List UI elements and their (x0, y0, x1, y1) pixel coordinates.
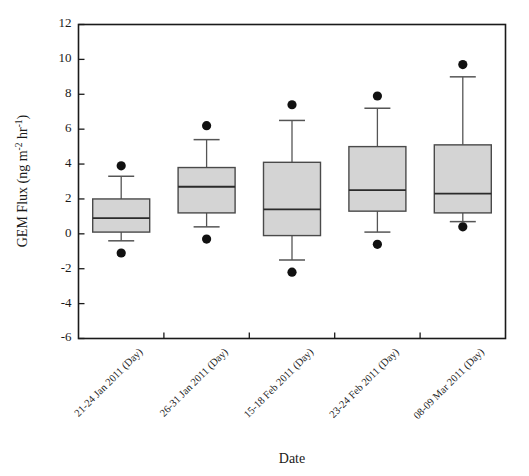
box-iqr (434, 145, 491, 213)
outlier-point (117, 161, 126, 170)
y-axis-title-suffix: ) (15, 114, 31, 119)
y-tick-label: -2 (61, 260, 72, 275)
y-axis-title: GEM Flux (ng m-2 hr-1) (14, 114, 31, 247)
chart-canvas: 121086420-2-4-6 21-24 Jan 2011 (Day)26-3… (0, 0, 529, 476)
outlier-point (458, 60, 467, 69)
y-tick-label: -4 (61, 295, 72, 310)
y-tick-label: 12 (59, 15, 72, 30)
y-tick-label: 8 (65, 85, 72, 100)
y-tick-label: 0 (65, 225, 72, 240)
y-tick-label: 4 (65, 155, 72, 170)
y-tick-label: -6 (61, 329, 72, 344)
outlier-point (117, 248, 126, 257)
boxplot-figure: 121086420-2-4-6 21-24 Jan 2011 (Day)26-3… (0, 0, 529, 476)
outlier-point (458, 222, 467, 231)
box-iqr (93, 199, 150, 232)
x-axis-title: Date (279, 451, 305, 466)
box-iqr (178, 168, 235, 213)
outlier-point (202, 121, 211, 130)
y-axis-title-prefix: GEM Flux (ng m (15, 150, 31, 247)
outlier-point (373, 240, 382, 249)
outlier-point (287, 268, 296, 277)
y-axis-title-mid: hr (15, 127, 30, 143)
y-tick-label: 2 (65, 190, 72, 205)
outlier-point (287, 100, 296, 109)
y-tick-label: 10 (59, 50, 72, 65)
box-iqr (264, 162, 321, 235)
svg-text:GEM Flux (ng m-2 hr-1): GEM Flux (ng m-2 hr-1) (14, 114, 31, 247)
outlier-point (202, 234, 211, 243)
outlier-point (373, 91, 382, 100)
box-iqr (349, 147, 406, 212)
y-tick-label: 6 (65, 120, 72, 135)
